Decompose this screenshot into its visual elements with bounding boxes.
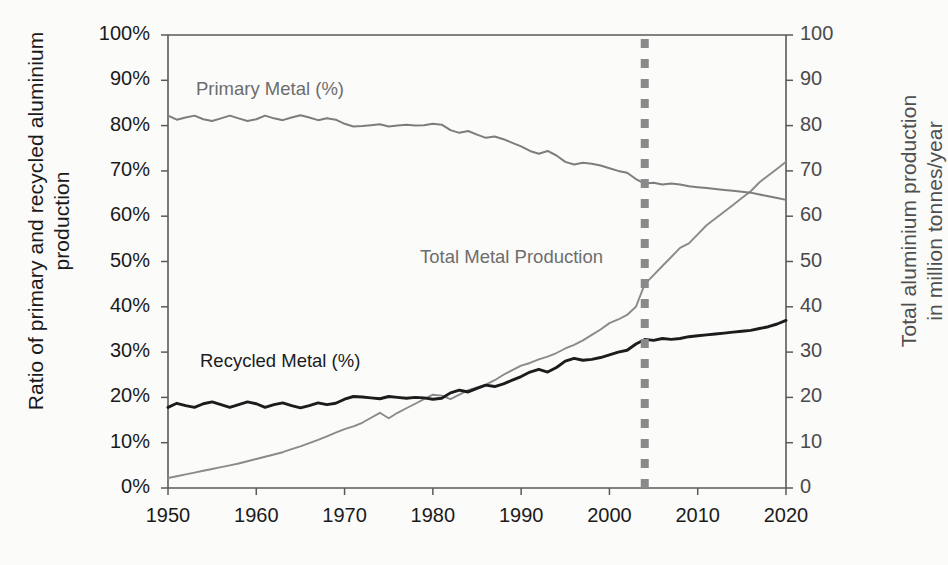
y-tick-label-right: 90 — [800, 67, 860, 90]
y-tick-label-left: 50% — [90, 249, 150, 272]
y-tick-label-left: 70% — [90, 158, 150, 181]
series-line-recycled — [168, 320, 786, 407]
y-tick-label-left: 100% — [90, 22, 150, 45]
y-tick-label-left: 80% — [90, 113, 150, 136]
x-tick-label: 1950 — [128, 504, 208, 527]
x-tick-label: 1990 — [481, 504, 561, 527]
x-tick-label: 2000 — [569, 504, 649, 527]
x-tick-label: 1980 — [393, 504, 473, 527]
series-line-primary — [168, 115, 786, 200]
y-tick-label-left: 30% — [90, 339, 150, 362]
x-tick-label: 2020 — [746, 504, 826, 527]
y-tick-label-right: 30 — [800, 339, 860, 362]
y-tick-label-left: 60% — [90, 203, 150, 226]
y-tick-label-left: 90% — [90, 67, 150, 90]
y-tick-label-right: 20 — [800, 384, 860, 407]
y-tick-label-left: 40% — [90, 294, 150, 317]
y-tick-label-right: 60 — [800, 203, 860, 226]
series-line-total — [168, 162, 786, 478]
axis-layer — [161, 35, 793, 495]
y-tick-label-right: 80 — [800, 113, 860, 136]
series-layer — [168, 115, 786, 478]
y-tick-label-left: 0% — [90, 475, 150, 498]
y-tick-label-right: 50 — [800, 249, 860, 272]
y-tick-label-right: 100 — [800, 22, 860, 45]
y-tick-label-left: 10% — [90, 430, 150, 453]
y-tick-label-right: 0 — [800, 475, 860, 498]
y-tick-label-left: 20% — [90, 384, 150, 407]
x-tick-label: 1960 — [216, 504, 296, 527]
x-tick-label: 1970 — [305, 504, 385, 527]
y-tick-label-right: 10 — [800, 430, 860, 453]
y-tick-label-right: 70 — [800, 158, 860, 181]
y-tick-label-right: 40 — [800, 294, 860, 317]
x-tick-label: 2010 — [658, 504, 738, 527]
